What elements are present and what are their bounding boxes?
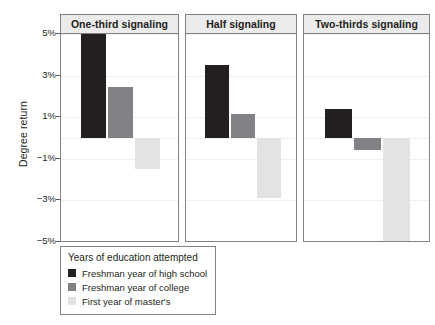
gridline bbox=[304, 159, 429, 160]
panel-title: Two-thirds signaling bbox=[315, 18, 418, 30]
panel-title: Half signaling bbox=[206, 18, 276, 30]
panel-plot-area bbox=[303, 33, 430, 242]
panel: One-third signaling bbox=[60, 14, 179, 242]
legend-item: Freshman year of college bbox=[68, 280, 208, 294]
y-tick-mark bbox=[56, 116, 60, 117]
panel-title: One-third signaling bbox=[71, 18, 168, 30]
gridline bbox=[304, 200, 429, 201]
gridline bbox=[186, 200, 296, 201]
y-tick-mark bbox=[56, 75, 60, 76]
y-tick-label: 3% bbox=[22, 70, 56, 80]
gridline bbox=[61, 159, 178, 160]
legend-item-label: First year of master's bbox=[82, 296, 170, 307]
panel-plot-area bbox=[185, 33, 297, 242]
panel: Half signaling bbox=[185, 14, 297, 242]
y-tick-label: 1% bbox=[22, 111, 56, 121]
y-tick-mark bbox=[56, 241, 60, 242]
gridline bbox=[304, 117, 429, 118]
legend-items: Freshman year of high schoolFreshman yea… bbox=[68, 266, 208, 308]
y-tick-mark bbox=[56, 33, 60, 34]
panel-title-strip: Half signaling bbox=[185, 14, 297, 34]
legend-item-label: Freshman year of high school bbox=[82, 268, 207, 279]
gridline bbox=[186, 34, 296, 35]
legend-item: Freshman year of high school bbox=[68, 266, 208, 280]
bar bbox=[135, 138, 160, 169]
y-tick-label: −1% bbox=[22, 153, 56, 163]
bar bbox=[81, 33, 106, 138]
legend: Years of education attempted Freshman ye… bbox=[60, 246, 216, 315]
legend-title: Years of education attempted bbox=[68, 252, 208, 263]
gridline bbox=[304, 76, 429, 77]
degree-return-chart: Degree return 5%3%1%−1%−3%−5% One-third … bbox=[0, 0, 435, 325]
panel-title-strip: Two-thirds signaling bbox=[303, 14, 430, 34]
legend-swatch-icon bbox=[68, 297, 76, 305]
bar bbox=[257, 138, 281, 198]
gridline bbox=[186, 76, 296, 77]
gridline bbox=[61, 76, 178, 77]
panel-title-strip: One-third signaling bbox=[60, 14, 179, 34]
y-axis-tick-labels: 5%3%1%−1%−3%−5% bbox=[20, 0, 56, 325]
panel: Two-thirds signaling bbox=[303, 14, 430, 242]
y-tick-label: −3% bbox=[22, 194, 56, 204]
gridline bbox=[304, 34, 429, 35]
y-tick-mark bbox=[56, 158, 60, 159]
bar bbox=[231, 114, 255, 138]
y-tick-mark bbox=[56, 199, 60, 200]
y-tick-label: −5% bbox=[22, 236, 56, 246]
bar bbox=[205, 65, 229, 138]
gridline bbox=[61, 200, 178, 201]
legend-swatch-icon bbox=[68, 269, 76, 277]
bar bbox=[325, 109, 352, 138]
y-tick-label: 5% bbox=[22, 28, 56, 38]
legend-swatch-icon bbox=[68, 283, 76, 291]
bar bbox=[383, 138, 410, 242]
legend-item: First year of master's bbox=[68, 294, 208, 308]
legend-item-label: Freshman year of college bbox=[82, 282, 189, 293]
gridline bbox=[61, 34, 178, 35]
bar bbox=[108, 87, 133, 138]
bar bbox=[354, 138, 381, 150]
zero-baseline bbox=[61, 138, 178, 139]
panel-plot-area bbox=[60, 33, 179, 242]
